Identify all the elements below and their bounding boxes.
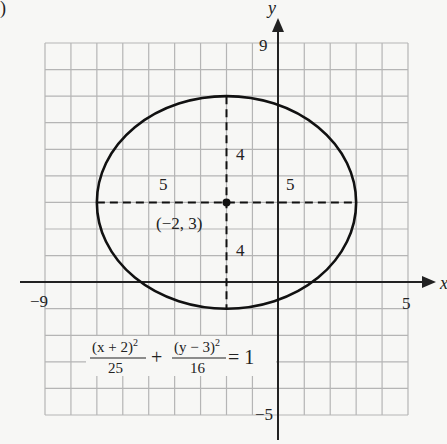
y-axis-arrow-icon [272, 18, 284, 32]
y-max-tick: 9 [259, 36, 268, 55]
right-semi-axis-label: 5 [286, 175, 295, 194]
y-axis-label: y [266, 0, 276, 18]
lower-semi-axis-label: 4 [236, 241, 245, 260]
equation: (x + 2)2 25 + (y − 3)2 16 = 1 [86, 336, 276, 376]
center-label: (−2, 3) [156, 214, 202, 233]
center-point [223, 198, 231, 206]
x-axis-label: x [439, 273, 447, 293]
y-min-tick: −5 [255, 405, 273, 424]
upper-semi-axis-label: 4 [236, 145, 245, 164]
equals-one: = 1 [228, 346, 254, 368]
x-max-tick: 5 [402, 294, 411, 313]
left-semi-axis-label: 5 [159, 175, 168, 194]
plus-sign: + [151, 346, 162, 368]
figure-label: ) [0, 0, 6, 19]
x-axis-arrow-icon [422, 276, 436, 288]
term1-denominator: 25 [108, 360, 123, 376]
term2-numerator: (y − 3)2 [174, 337, 220, 356]
x-min-tick: −9 [30, 292, 48, 311]
term2-denominator: 16 [190, 360, 206, 376]
term1-numerator: (x + 2)2 [92, 337, 138, 356]
ellipse-graph: ) x y 9 −5 −9 5 5 5 4 4 (−2, 3) (x + 2)2… [0, 0, 447, 444]
